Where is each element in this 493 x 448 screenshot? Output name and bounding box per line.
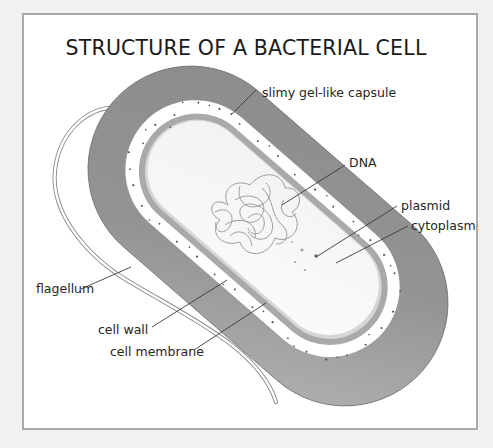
label-dna: DNA <box>349 155 377 170</box>
label-cytoplasm: cytoplasm <box>411 218 476 233</box>
label-cell-membrane: cell membrane <box>110 344 204 359</box>
label-flagellum: flagellum <box>36 281 94 296</box>
label-cell-wall: cell wall <box>98 322 148 337</box>
label-plasmid: plasmid <box>401 198 450 213</box>
bacterial-cell-diagram: STRUCTURE OF A BACTERIAL CELL <box>0 0 493 448</box>
diagram-title: STRUCTURE OF A BACTERIAL CELL <box>66 36 427 60</box>
label-capsule: slimy gel-like capsule <box>262 85 396 100</box>
